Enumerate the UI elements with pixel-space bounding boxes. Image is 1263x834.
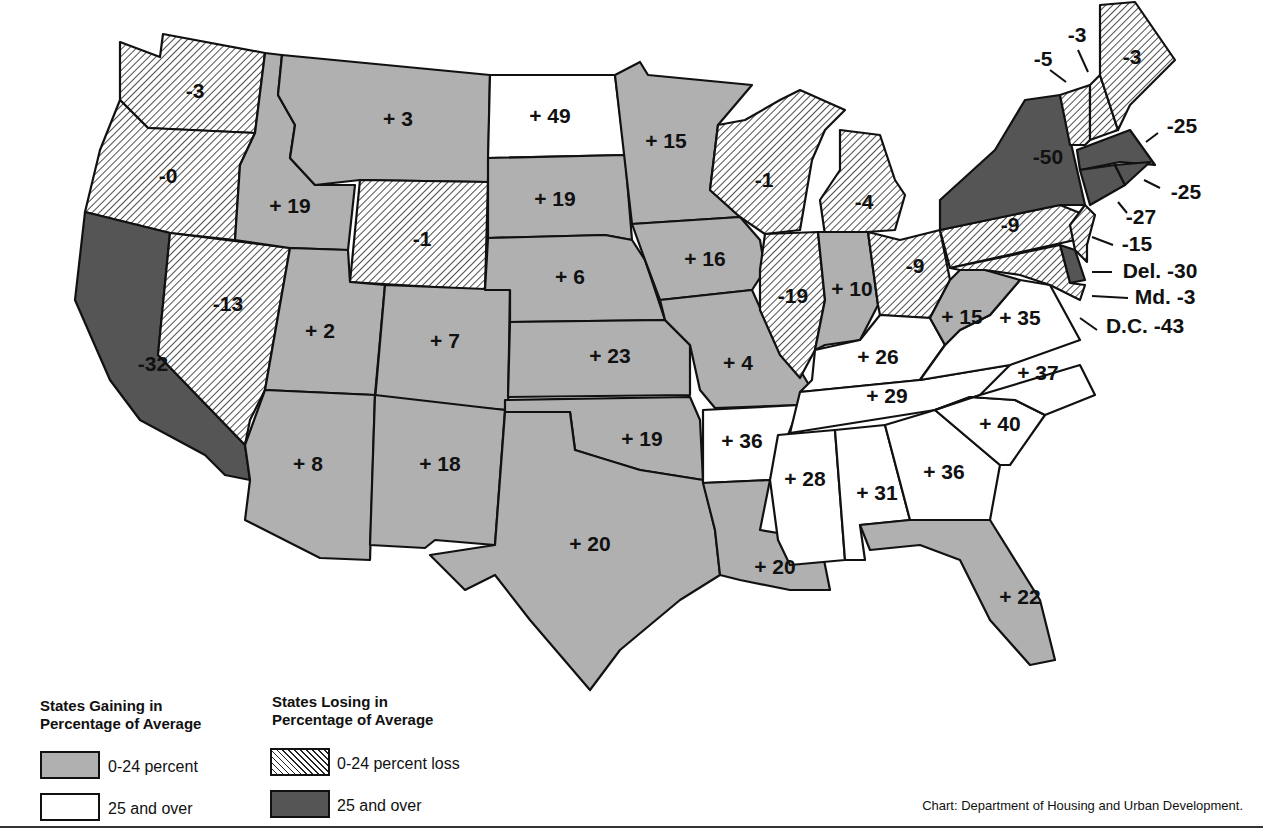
label-nv: -13: [213, 292, 243, 315]
label-ri: -25: [1171, 180, 1202, 203]
label-me: -3: [1123, 45, 1142, 68]
label-ne: + 6: [555, 265, 585, 288]
label-ct: -27: [1126, 205, 1156, 228]
label-wi: -1: [755, 168, 774, 191]
legend-loss-title-line1: States Losing in: [272, 693, 433, 711]
label-ms: + 28: [784, 467, 826, 490]
leader-ri: [1144, 180, 1160, 188]
label-dc: D.C. -43: [1106, 314, 1184, 337]
label-vt: -5: [1034, 47, 1053, 70]
label-de: Del. -30: [1123, 259, 1198, 282]
label-az: + 8: [293, 452, 323, 475]
label-md: Md. -3: [1135, 285, 1196, 308]
label-sd: + 19: [534, 187, 575, 210]
label-il: -19: [778, 284, 808, 307]
label-mn: + 15: [645, 129, 687, 152]
label-mt: + 3: [383, 107, 413, 130]
legend-loss-title-line2: Percentage of Average: [272, 711, 433, 729]
label-wy: -1: [413, 227, 432, 250]
label-nd: + 49: [529, 104, 570, 127]
state-ms: [770, 430, 845, 565]
legend-gain-title-line2: Percentage of Average: [40, 715, 201, 733]
leader-vt: [1050, 70, 1066, 82]
legend-label-gain-25-over: 25 and over: [108, 800, 193, 818]
label-ok: + 19: [621, 427, 662, 450]
legend-swatch-gain-0-24: [40, 751, 100, 779]
legend-gain-title-line1: States Gaining in: [40, 697, 201, 715]
label-nc: + 37: [1017, 361, 1058, 384]
label-oh: -9: [906, 254, 925, 277]
label-wa: -3: [186, 79, 205, 102]
legend-label-loss-25-over: 25 and over: [337, 797, 422, 815]
label-co: + 7: [430, 329, 460, 352]
label-tn: + 29: [866, 384, 907, 407]
legend-swatch-loss-0-24: [270, 748, 330, 776]
label-ar: + 36: [721, 429, 762, 452]
legend-gain-title: States Gaining in Percentage of Average: [40, 697, 201, 733]
state-az: [245, 390, 375, 560]
label-fl: + 22: [999, 585, 1040, 608]
label-nh: -3: [1068, 23, 1087, 46]
label-ia: + 16: [684, 247, 725, 270]
label-nj: -15: [1122, 232, 1153, 255]
label-or: -0: [159, 164, 178, 187]
bottom-rule: [0, 826, 1263, 828]
label-pa: -9: [1001, 213, 1020, 236]
label-ga: + 36: [923, 460, 964, 483]
legend-loss-title: States Losing in Percentage of Average: [272, 693, 433, 729]
leader-nh: [1078, 50, 1088, 72]
leader-dc: [1080, 318, 1097, 330]
label-id: + 19: [269, 194, 310, 217]
label-va: + 35: [999, 306, 1041, 329]
label-mo: + 4: [723, 351, 753, 374]
state-mi: [820, 130, 905, 235]
label-sc: + 40: [979, 412, 1020, 435]
label-mi: -4: [855, 190, 874, 213]
label-la: + 20: [754, 555, 795, 578]
label-tx: + 20: [569, 532, 610, 555]
legend-label-loss-0-24: 0-24 percent loss: [337, 755, 460, 773]
label-ut: + 2: [305, 319, 335, 342]
legend-swatch-gain-25-over: [40, 793, 100, 821]
source-credit: Chart: Department of Housing and Urban D…: [922, 798, 1243, 813]
label-ky: + 26: [857, 345, 898, 368]
label-ca: -32: [138, 352, 168, 375]
label-al: + 31: [856, 481, 898, 504]
label-nm: + 18: [419, 452, 461, 475]
label-ma: -25: [1167, 114, 1198, 137]
legend-label-gain-0-24: 0-24 percent: [108, 758, 198, 776]
label-wv: + 15: [941, 305, 983, 328]
label-ks: + 23: [589, 344, 630, 367]
leader-nj: [1092, 237, 1113, 245]
leader-ma: [1146, 133, 1158, 142]
label-in: + 10: [831, 277, 872, 300]
label-ny: -50: [1033, 145, 1063, 168]
leader-md: [1092, 296, 1128, 298]
legend-swatch-loss-25-over: [270, 790, 330, 818]
